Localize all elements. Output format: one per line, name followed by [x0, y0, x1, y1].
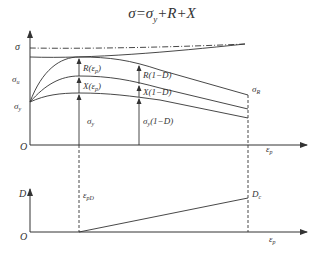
- sigma-R-label: σR: [252, 84, 260, 95]
- sigma-y-label: σy: [14, 101, 21, 112]
- total-stress-line: [30, 44, 245, 57]
- upper-plot: σ O εp σu σy R(εp) X(εp) σy R(1−D) X(1−D…: [12, 31, 307, 155]
- lower-origin-label: O: [20, 231, 27, 242]
- R-epsilon-label: R(εp): [82, 63, 101, 74]
- epsilon-pD-label: εpD: [83, 190, 95, 201]
- sigma-y-arrow-label: σy: [87, 116, 94, 127]
- sigma-damaged-label: σy(1−D): [143, 116, 173, 127]
- upper-y-axis-label: σ: [15, 41, 21, 52]
- sigma-u-label: σu: [12, 74, 19, 85]
- Dc-label: Dc: [251, 189, 262, 200]
- R-damaged-label: R(1−D): [142, 70, 172, 80]
- upper-x-axis-label: εp: [266, 144, 273, 155]
- damage-plasticity-diagram: σ O εp σu σy R(εp) X(εp) σy R(1−D) X(1−D…: [0, 0, 324, 259]
- X-epsilon-label: X(εp): [82, 81, 101, 92]
- lower-plot: D O εp εpD Dc: [18, 188, 307, 245]
- damage-evolution-line: [79, 198, 248, 232]
- lower-y-axis-label: D: [18, 188, 27, 199]
- upper-origin-label: O: [20, 141, 27, 152]
- lower-x-axis-label: εp: [269, 234, 276, 245]
- X-damaged-label: X(1−D): [142, 87, 172, 97]
